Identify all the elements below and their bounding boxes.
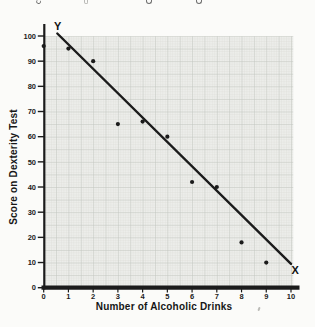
y-axis-tick-labels: 0102030405060708090100 xyxy=(23,32,36,293)
x-tick-label: 7 xyxy=(215,292,219,301)
x-axis-end-label: X xyxy=(292,264,300,276)
data-point xyxy=(215,185,219,189)
x-tick-label: 6 xyxy=(190,292,194,301)
x-tick-label: 3 xyxy=(116,292,120,301)
data-point xyxy=(239,240,243,244)
x-tick-label: 1 xyxy=(66,292,70,301)
y-tick-label: 60 xyxy=(28,132,36,141)
data-point xyxy=(165,135,169,139)
x-tick-label: 9 xyxy=(264,292,268,301)
data-point xyxy=(91,59,95,63)
scatter-plot: 0102030405060708090100 012345678910 Scor… xyxy=(0,0,315,327)
x-tick-label: 10 xyxy=(287,292,295,301)
x-tick-label: 5 xyxy=(165,292,169,301)
x-axis-title: Number of Alcoholic Drinks xyxy=(96,301,233,312)
data-point xyxy=(190,180,194,184)
y-tick-label: 90 xyxy=(28,57,36,66)
y-axis-end-label: Y xyxy=(54,20,62,32)
y-tick-label: 20 xyxy=(28,233,36,242)
y-tick-label: 80 xyxy=(28,82,36,91)
y-tick-label: 50 xyxy=(28,158,36,167)
x-tick-label: 0 xyxy=(42,292,46,301)
y-tick-label: 30 xyxy=(28,208,36,217)
y-tick-label: 40 xyxy=(28,183,36,192)
x-tick-label: 2 xyxy=(91,292,95,301)
scanned-textbook-figure: 0102030405060708090100 012345678910 Scor… xyxy=(0,0,315,327)
x-tick-label: 8 xyxy=(239,292,243,301)
x-axis-tick-labels: 012345678910 xyxy=(42,292,296,301)
grid-major xyxy=(44,36,293,287)
data-point xyxy=(141,119,145,123)
data-point xyxy=(66,46,70,50)
data-point xyxy=(116,122,120,126)
data-point xyxy=(264,260,268,264)
y-tick-label: 10 xyxy=(28,258,36,267)
y-tick-label: 0 xyxy=(32,283,36,292)
y-tick-label: 100 xyxy=(23,32,36,41)
y-axis-title: Score on Dexterity Test xyxy=(8,109,19,225)
x-tick-label: 4 xyxy=(141,292,146,301)
data-point xyxy=(42,44,46,48)
y-tick-label: 70 xyxy=(28,107,36,116)
